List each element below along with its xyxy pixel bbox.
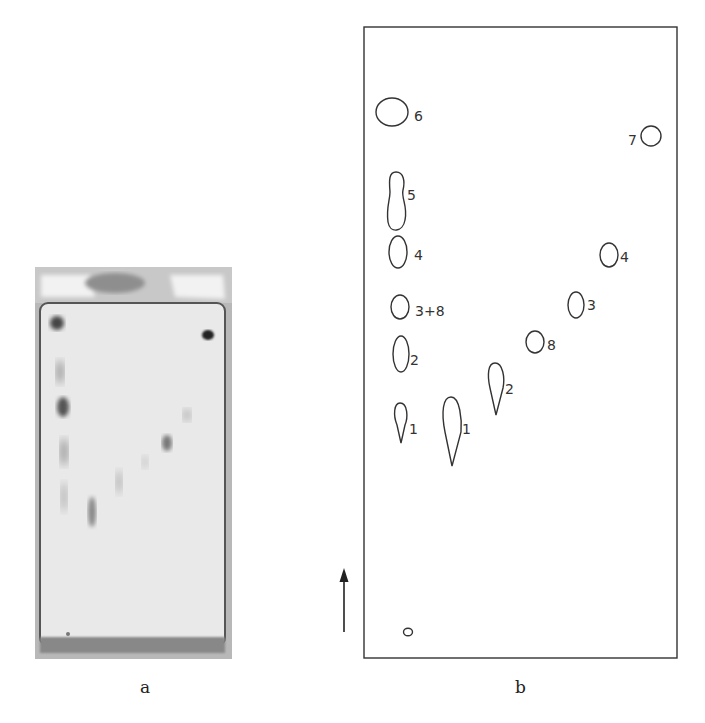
spot-2-left	[393, 336, 409, 372]
label-8: 8	[547, 337, 556, 353]
spot-7	[641, 126, 661, 146]
spot-4-left	[389, 236, 407, 268]
label-1-left: 1	[409, 421, 418, 437]
spot-3-right	[568, 292, 584, 318]
label-2-mid: 2	[505, 381, 514, 397]
spot-1-left	[395, 403, 407, 443]
spot-1-mid	[443, 397, 461, 466]
origin-mark	[404, 628, 413, 636]
label-4-right: 4	[620, 249, 629, 265]
label-5: 5	[407, 187, 416, 203]
label-3-8: 3+8	[415, 303, 445, 319]
label-1-mid: 1	[462, 421, 471, 437]
plate-outline	[364, 27, 677, 658]
label-7: 7	[628, 132, 637, 148]
tlc-schematic: 6 5 4 3+8 2 1 1 2 8 3 4 7	[0, 0, 705, 723]
label-6: 6	[414, 108, 423, 124]
spot-5	[387, 172, 405, 230]
spot-2-mid	[488, 363, 503, 415]
spot-4-right	[600, 243, 618, 267]
label-2-left: 2	[410, 352, 419, 368]
spot-8	[526, 331, 544, 353]
panel-b-caption: b	[515, 677, 526, 697]
spot-6	[376, 98, 408, 126]
label-4-left: 4	[414, 247, 423, 263]
arrow-up-icon	[340, 568, 349, 632]
label-3-right: 3	[587, 297, 596, 313]
spot-3-8	[391, 295, 409, 319]
